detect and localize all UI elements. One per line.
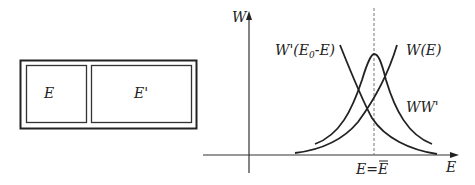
subsystem-b-label: E' [133,85,148,101]
curve-w-prime-label: W'(E0-E) [275,42,335,60]
e-bar-symbol: E [377,161,388,177]
composite-system: E E' [21,61,197,129]
subsystem-a-box [27,66,87,123]
curve-ww-prime-label: WW' [406,99,439,115]
diagram-canvas: E E' W E W'(E0-E) W(E) WW' E=E [0,0,475,185]
y-axis-label: W [232,9,248,25]
plot: W E W'(E0-E) W(E) WW' E=E [203,8,459,177]
e-bar-label: E=E [355,161,388,177]
x-axis-label: E [445,159,456,175]
x-axis-arrow-icon [450,152,459,158]
svg-text:E=E: E=E [355,161,388,177]
curve-w-label: W(E) [406,42,442,58]
y-axis-arrow-icon [246,11,252,20]
subsystem-a-label: E [43,85,54,101]
